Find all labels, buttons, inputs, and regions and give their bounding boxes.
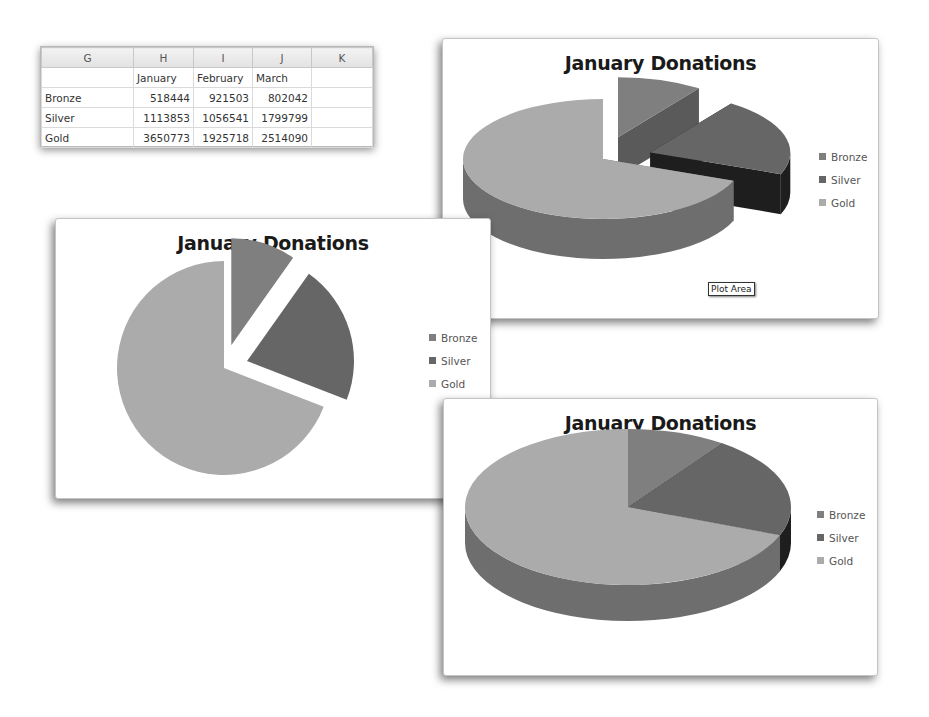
chart-legend[interactable]: Bronze Silver Gold [817,503,865,572]
spreadsheet-range: G H I J K January February March Bronze … [40,46,374,147]
legend-item-gold: Gold [817,549,865,572]
cell-value[interactable]: 2514090 [253,128,312,148]
legend-item-gold: Gold [429,372,477,395]
chart-legend[interactable]: Bronze Silver Gold [429,326,477,395]
legend-item-bronze: Bronze [429,326,477,349]
legend-swatch-bronze [429,334,436,341]
cell-row-label[interactable]: Gold [42,128,134,148]
cell-value[interactable]: 1925718 [194,128,253,148]
legend-swatch-silver [429,357,436,364]
pie-plot[interactable] [444,399,877,675]
legend-label: Gold [831,197,855,209]
cell[interactable] [312,68,373,88]
column-header-row: G H I J K [42,48,373,68]
cell-value[interactable]: 1113853 [134,108,194,128]
data-table: G H I J K January February March Bronze … [41,47,373,148]
cell-value[interactable]: 3650773 [134,128,194,148]
chart-3d-exploded-pie[interactable]: January Donations Bronze Silver Gold Plo… [442,38,879,319]
legend-label: Bronze [441,332,477,344]
cell[interactable] [312,88,373,108]
cell[interactable] [312,128,373,148]
legend-label: Silver [831,174,861,186]
column-header-g[interactable]: G [42,48,134,68]
cell-month-header[interactable]: February [194,68,253,88]
plot-area-tooltip: Plot Area [708,282,755,296]
legend-swatch-gold [819,199,826,206]
chart-3d-pie[interactable]: January Donations Bronze Silver Gold [443,398,878,676]
legend-item-silver: Silver [819,168,867,191]
table-row: January February March [42,68,373,88]
legend-swatch-silver [817,534,824,541]
column-header-i[interactable]: I [194,48,253,68]
cell-value[interactable]: 802042 [253,88,312,108]
pie-plot[interactable] [56,219,490,498]
legend-label: Gold [441,378,465,390]
cell[interactable] [42,68,134,88]
table-row: Gold 3650773 1925718 2514090 [42,128,373,148]
legend-swatch-bronze [817,511,824,518]
legend-swatch-gold [817,557,824,564]
cell-value[interactable]: 921503 [194,88,253,108]
cell-row-label[interactable]: Bronze [42,88,134,108]
legend-label: Silver [441,355,471,367]
legend-swatch-bronze [819,153,826,160]
column-header-j[interactable]: J [253,48,312,68]
cell[interactable] [312,108,373,128]
legend-item-bronze: Bronze [817,503,865,526]
legend-label: Silver [829,532,859,544]
cell-month-header[interactable]: March [253,68,312,88]
cell-value[interactable]: 1056541 [194,108,253,128]
legend-item-bronze: Bronze [819,145,867,168]
pie-plot[interactable] [443,39,878,318]
column-header-h[interactable]: H [134,48,194,68]
chart-2d-exploded-pie[interactable]: January Donations Bronze Silver Gold [55,218,491,499]
cell-row-label[interactable]: Silver [42,108,134,128]
legend-swatch-silver [819,176,826,183]
legend-item-silver: Silver [817,526,865,549]
cell-value[interactable]: 1799799 [253,108,312,128]
table-row: Silver 1113853 1056541 1799799 [42,108,373,128]
legend-item-silver: Silver [429,349,477,372]
legend-label: Bronze [829,509,865,521]
cell-value[interactable]: 518444 [134,88,194,108]
column-header-k[interactable]: K [312,48,373,68]
legend-label: Gold [829,555,853,567]
cell-month-header[interactable]: January [134,68,194,88]
legend-item-gold: Gold [819,191,867,214]
legend-label: Bronze [831,151,867,163]
chart-legend[interactable]: Bronze Silver Gold [819,145,867,214]
table-row: Bronze 518444 921503 802042 [42,88,373,108]
legend-swatch-gold [429,380,436,387]
